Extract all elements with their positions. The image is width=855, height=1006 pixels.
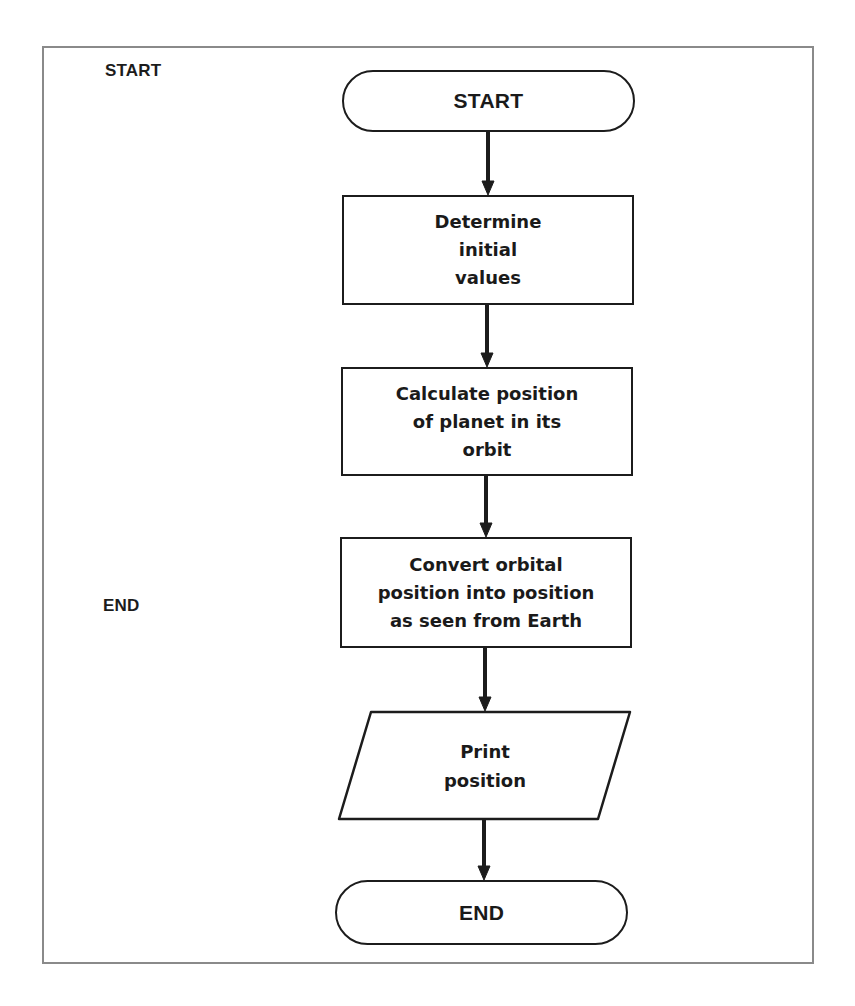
end-side-label: END bbox=[103, 596, 140, 616]
io-print-position: Print position bbox=[360, 712, 610, 819]
start-side-label: START bbox=[105, 61, 161, 81]
process-convert-to-earth-position: Convert orbital position into position a… bbox=[340, 537, 632, 648]
start-terminal: START bbox=[342, 70, 635, 132]
diagram-frame bbox=[42, 46, 814, 964]
start-terminal-text: START bbox=[454, 89, 524, 113]
end-terminal: END bbox=[335, 880, 628, 945]
end-terminal-text: END bbox=[459, 901, 504, 925]
process-determine-initial-values: Determine initial values bbox=[342, 195, 634, 305]
process-calculate-orbit-position: Calculate position of planet in its orbi… bbox=[341, 367, 633, 476]
